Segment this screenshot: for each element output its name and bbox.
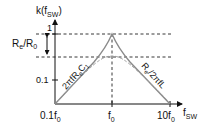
resonance-gain-diagram: k(fSW) 1 0.1 Re/R0 2πfReC1 Re/2πfL 0.1f0… — [0, 0, 204, 126]
x-axis-label: fSW — [183, 107, 197, 120]
x-tick-label-f0: f0 — [108, 110, 115, 123]
x-tick-label-10f0: 10f0 — [157, 110, 175, 123]
y-axis-label: k(fSW) — [36, 5, 62, 18]
y-tick-label-1: 1 — [47, 23, 52, 33]
x-tick-label-0.1f0: 0.1f0 — [40, 110, 61, 123]
ratio-label: Re/R0 — [12, 38, 37, 50]
y-tick-label-0.1: 0.1 — [36, 75, 49, 85]
left-slope-label: 2πfReC1 — [60, 59, 91, 92]
